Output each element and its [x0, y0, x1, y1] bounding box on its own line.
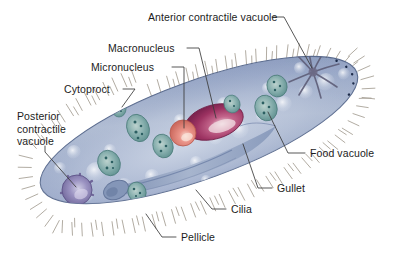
leader-pellicle: [146, 214, 176, 237]
label-food-vacuole: Food vacuole: [310, 147, 374, 160]
micronucleus: [170, 120, 196, 146]
label-gullet: Gullet: [277, 182, 305, 195]
label-micronucleus: Micronucleus: [91, 61, 154, 74]
label-pellicle: Pellicle: [181, 231, 215, 244]
label-macronucleus: Macronucleus: [108, 42, 175, 55]
label-anterior-contractile-vacuole: Anterior contractile vacuole: [148, 11, 277, 24]
label-posterior-contractile-vacuole: Posterior contractile vacuole: [17, 110, 66, 148]
label-cytoproct: Cytoproct: [64, 83, 110, 96]
label-cilia: Cilia: [231, 203, 252, 216]
